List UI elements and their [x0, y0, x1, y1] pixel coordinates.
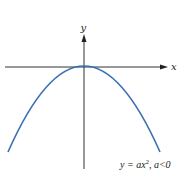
x-axis-arrow-icon — [160, 65, 168, 70]
equation-label: y = ax2, a<0 — [119, 158, 171, 170]
y-axis-arrow-icon — [82, 34, 87, 42]
parabola-diagram: x y y = ax2, a<0 — [0, 0, 181, 175]
x-axis-label: x — [171, 61, 177, 72]
y-axis-label: y — [80, 22, 87, 33]
